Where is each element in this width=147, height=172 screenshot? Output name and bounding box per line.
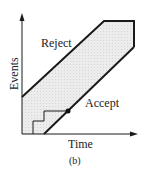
reject-label: Reject — [41, 36, 72, 51]
decision-point-icon — [66, 109, 71, 114]
accept-label: Accept — [85, 96, 119, 111]
x-axis-arrow-icon — [130, 132, 138, 137]
y-axis-label: Events — [7, 57, 22, 90]
x-axis-label: Time — [68, 137, 93, 152]
figure-caption: (b) — [69, 155, 81, 166]
y-axis-arrow-icon — [20, 13, 25, 21]
continue-region — [22, 21, 134, 134]
